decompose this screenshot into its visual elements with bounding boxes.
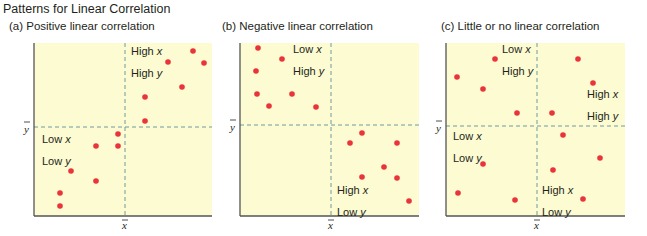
- plot-area: [240, 43, 419, 216]
- quadrant-label-low-x-high-y: High y: [502, 65, 535, 77]
- quadrant-label-low-x-low-y: Low x: [453, 130, 482, 142]
- plot-area: [34, 43, 212, 216]
- data-point: [68, 168, 74, 174]
- data-point: [575, 56, 581, 62]
- data-point: [359, 174, 365, 180]
- data-point: [560, 132, 566, 138]
- data-point: [279, 56, 285, 62]
- quadrant-label-high-x-high-y: High y: [587, 110, 620, 122]
- data-point: [514, 110, 520, 116]
- data-point: [179, 84, 185, 90]
- data-point: [455, 190, 461, 196]
- data-point: [454, 74, 460, 80]
- data-point: [115, 131, 121, 137]
- scatter-plots: xyHigh xHigh yLow xLow yxyLow xHigh yHig…: [0, 0, 647, 236]
- data-point: [394, 175, 400, 181]
- data-point: [512, 197, 518, 203]
- data-point: [255, 45, 261, 51]
- data-point: [480, 86, 486, 92]
- quadrant-label-low-x-high-y: Low x: [293, 43, 322, 55]
- y-mean-label: y: [435, 122, 441, 134]
- data-point: [394, 140, 400, 146]
- data-point: [381, 164, 387, 170]
- data-point: [359, 130, 365, 136]
- data-point: [289, 91, 295, 97]
- data-point: [266, 103, 272, 109]
- y-mean-label: y: [229, 121, 235, 133]
- data-point: [115, 143, 121, 149]
- data-point: [57, 190, 63, 196]
- data-point: [590, 80, 596, 86]
- quadrant-label-high-x-low-y: Low y: [337, 206, 367, 218]
- quadrant-label-low-x-high-y: High y: [293, 65, 326, 77]
- x-mean-label: x: [121, 219, 127, 231]
- data-point: [550, 167, 556, 173]
- data-point: [347, 140, 353, 146]
- data-point: [253, 68, 259, 74]
- data-point: [580, 196, 586, 202]
- x-mean-label: x: [533, 219, 539, 231]
- data-point: [93, 178, 99, 184]
- data-point: [549, 110, 555, 116]
- data-point: [142, 118, 148, 124]
- data-point: [201, 60, 207, 66]
- quadrant-label-high-x-low-y: Low y: [542, 206, 572, 218]
- panel-b: xyLow xHigh yHigh xLow y: [229, 43, 419, 231]
- quadrant-label-high-x-high-y: High y: [131, 67, 164, 79]
- data-point: [597, 155, 603, 161]
- quadrant-label-high-x-high-y: High x: [587, 88, 619, 100]
- data-point: [142, 94, 148, 100]
- quadrant-label-low-x-low-y: Low y: [42, 155, 72, 167]
- panel-a: xyHigh xHigh yLow xLow y: [23, 43, 212, 231]
- data-point: [93, 143, 99, 149]
- x-mean-label: x: [327, 219, 333, 231]
- data-point: [406, 198, 412, 204]
- data-point: [492, 56, 498, 62]
- data-point: [254, 91, 260, 97]
- y-mean-label: y: [23, 123, 29, 135]
- quadrant-label-low-x-high-y: Low x: [502, 43, 531, 55]
- quadrant-label-high-x-high-y: High x: [131, 45, 163, 57]
- quadrant-label-low-x-low-y: Low x: [42, 133, 71, 145]
- data-point: [57, 203, 63, 209]
- panel-c: xyLow xHigh yHigh xHigh yLow xLow yHigh …: [435, 43, 625, 231]
- data-point: [190, 48, 196, 54]
- quadrant-label-high-x-low-y: High x: [337, 184, 369, 196]
- data-point: [313, 104, 319, 110]
- data-point: [165, 59, 171, 65]
- quadrant-label-high-x-low-y: High x: [542, 184, 574, 196]
- quadrant-label-low-x-low-y: Low y: [453, 152, 483, 164]
